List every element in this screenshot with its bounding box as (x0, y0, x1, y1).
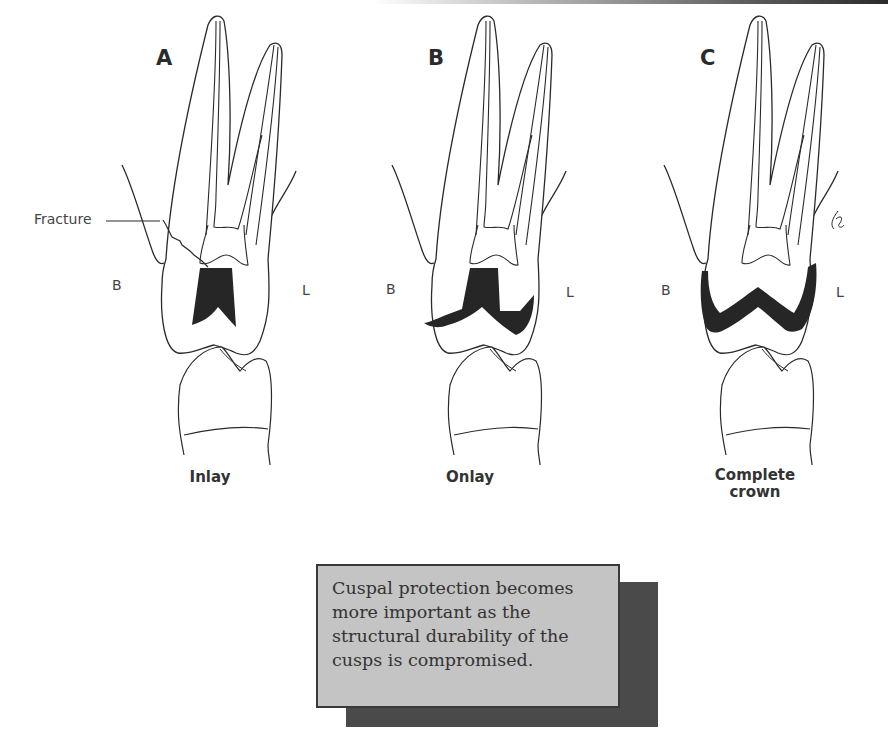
caption-line: crown (700, 484, 810, 501)
tooth-c (664, 16, 844, 465)
caption-line: Onlay (446, 468, 494, 486)
note-line: Cuspal protection becomes (332, 576, 618, 600)
note-box: Cuspal protection becomes more important… (316, 564, 620, 708)
panel-letter-b: B (428, 46, 444, 70)
lingual-label-c: L (836, 284, 844, 300)
lingual-label-a: L (302, 282, 310, 298)
note-line: structural durability of the (332, 624, 618, 648)
buccal-label-b: B (386, 281, 396, 297)
buccal-label-c: B (661, 282, 671, 298)
panel-letter-c: C (700, 46, 715, 70)
buccal-label-a: B (112, 277, 122, 293)
caption-line: Complete (700, 467, 810, 484)
note-line: more important as the (332, 600, 618, 624)
caption-inlay: Inlay (170, 469, 250, 486)
caption-complete-crown: Complete crown (700, 467, 810, 501)
fracture-label: Fracture (34, 211, 92, 227)
note-line: cusps is compromised. (332, 648, 618, 672)
caption-onlay: Onlay (430, 469, 510, 486)
tooth-a (122, 16, 296, 465)
panel-letter-a: A (156, 46, 172, 70)
tooth-b (392, 16, 566, 465)
lingual-label-b: L (566, 284, 574, 300)
caption-line: Inlay (190, 468, 231, 486)
